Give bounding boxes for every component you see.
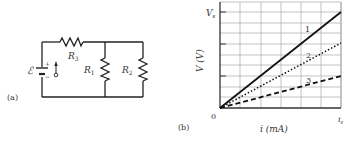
r1-label: R1 — [83, 65, 95, 76]
line-2-label: 2 — [306, 51, 311, 60]
resistor-r1 — [101, 58, 109, 81]
battery-plus-sign: + — [45, 60, 50, 67]
figure: ℰ + − R3 R1 R2 (a) 1 2 3 Vs is 0 — [0, 0, 351, 146]
r3-label: R3 — [67, 51, 79, 62]
panel-b-label: (b) — [178, 123, 189, 132]
current-meter-icon — [54, 73, 58, 77]
battery-minus-sign: − — [45, 73, 50, 80]
x-max-label: is — [338, 115, 344, 125]
emf-symbol: ℰ — [27, 65, 34, 76]
plot-grid — [220, 2, 341, 108]
line-2-dotted — [220, 43, 341, 108]
line-3-label: 3 — [306, 76, 311, 85]
x-axis-label: i (mA) — [260, 124, 288, 134]
line-1-label: 1 — [305, 25, 310, 34]
y-ticks — [220, 12, 226, 76]
circuit-diagram — [36, 38, 147, 97]
resistor-r3 — [60, 38, 83, 46]
origin-label: 0 — [211, 112, 216, 121]
y-max-label: Vs — [206, 8, 216, 19]
current-arrow-head-icon — [54, 61, 57, 66]
panel-a-label: (a) — [7, 93, 18, 102]
resistor-r2 — [139, 58, 147, 81]
r2-label: R2 — [121, 65, 133, 76]
line-3-dashed — [220, 76, 341, 108]
line-1-solid — [220, 12, 341, 108]
y-axis-label: V (V) — [195, 49, 205, 72]
